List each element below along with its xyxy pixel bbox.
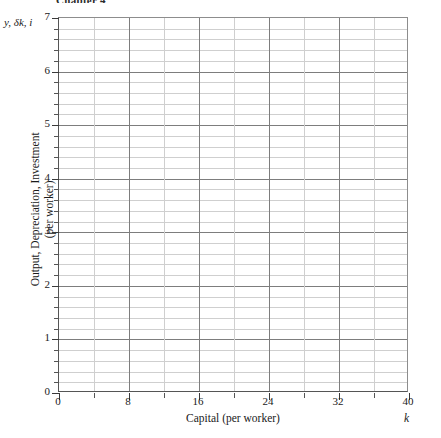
gridline-horizontal-major xyxy=(59,339,407,340)
y-axis-tick xyxy=(52,72,59,73)
x-axis-variable-symbol: k xyxy=(404,412,409,424)
gridline-horizontal-minor xyxy=(59,254,407,255)
y-tick-label-group: 01234567 xyxy=(30,17,50,392)
gridline-vertical-major xyxy=(269,18,270,391)
gridline-horizontal-major xyxy=(59,72,407,73)
gridline-horizontal-major xyxy=(59,232,407,233)
gridline-horizontal-minor xyxy=(59,329,407,330)
gridline-horizontal-minor xyxy=(59,211,407,212)
gridline-horizontal-minor xyxy=(59,29,407,30)
y-axis-tick xyxy=(54,211,59,212)
y-axis-tick xyxy=(52,232,59,233)
y-axis-tick xyxy=(54,82,59,83)
gridline-horizontal-minor xyxy=(59,93,407,94)
x-tick-label-group: 0816243240 xyxy=(58,396,408,412)
y-axis-tick xyxy=(54,189,59,190)
gridline-horizontal-minor xyxy=(59,39,407,40)
gridline-horizontal-minor xyxy=(59,189,407,190)
gridline-horizontal-minor xyxy=(59,157,407,158)
chart-page: Chapter 4 y, δk, i Output, Depreciation,… xyxy=(0,0,441,438)
gridline-horizontal-minor xyxy=(59,243,407,244)
plot-area xyxy=(58,17,408,392)
y-axis-tick xyxy=(52,339,59,340)
gridline-horizontal-minor xyxy=(59,222,407,223)
y-axis-tick xyxy=(52,179,59,180)
gridline-horizontal-minor xyxy=(59,318,407,319)
y-axis-tick xyxy=(52,18,59,19)
gridline-horizontal-major xyxy=(59,286,407,287)
y-axis-tick xyxy=(54,350,59,351)
y-axis-tick xyxy=(54,318,59,319)
y-tick-label: 5 xyxy=(45,118,51,129)
y-axis-tick xyxy=(52,125,59,126)
y-axis-tick xyxy=(54,114,59,115)
y-axis-tick xyxy=(54,50,59,51)
y-axis-tick xyxy=(54,372,59,373)
x-tick-label: 0 xyxy=(43,396,73,407)
y-axis-tick xyxy=(54,243,59,244)
y-axis-tick xyxy=(54,329,59,330)
y-axis-variable-symbol: y, δk, i xyxy=(4,16,32,28)
gridline-horizontal-minor xyxy=(59,147,407,148)
gridline-vertical-minor xyxy=(304,18,305,391)
gridline-horizontal-minor xyxy=(59,350,407,351)
gridline-horizontal-minor xyxy=(59,372,407,373)
gridline-vertical-minor xyxy=(94,18,95,391)
y-axis-tick xyxy=(52,393,59,394)
grid-layer xyxy=(59,18,407,391)
y-axis-tick xyxy=(54,275,59,276)
gridline-horizontal-minor xyxy=(59,50,407,51)
y-axis-tick xyxy=(54,168,59,169)
x-tick-label: 16 xyxy=(183,396,213,407)
gridline-horizontal-minor xyxy=(59,136,407,137)
x-tick-label: 24 xyxy=(253,396,283,407)
gridline-horizontal-minor xyxy=(59,264,407,265)
gridline-horizontal-minor xyxy=(59,61,407,62)
y-tick-label: 1 xyxy=(45,332,51,343)
gridline-horizontal-minor xyxy=(59,307,407,308)
y-axis-tick xyxy=(54,39,59,40)
y-tick-label: 3 xyxy=(45,225,51,236)
x-tick-label: 32 xyxy=(323,396,353,407)
x-tick-label: 8 xyxy=(113,396,143,407)
gridline-horizontal-minor xyxy=(59,168,407,169)
gridline-vertical-minor xyxy=(374,18,375,391)
x-axis-title: Capital (per worker) xyxy=(58,412,408,424)
y-tick-label: 7 xyxy=(45,11,51,22)
gridline-vertical-major xyxy=(339,18,340,391)
gridline-vertical-major xyxy=(199,18,200,391)
gridline-horizontal-major xyxy=(59,125,407,126)
gridline-vertical-major xyxy=(129,18,130,391)
y-axis-tick xyxy=(54,361,59,362)
y-axis-tick xyxy=(54,222,59,223)
y-axis-tick xyxy=(54,200,59,201)
y-axis-tick xyxy=(52,286,59,287)
y-axis-tick xyxy=(54,93,59,94)
gridline-horizontal-minor xyxy=(59,114,407,115)
gridline-horizontal-minor xyxy=(59,361,407,362)
gridline-vertical-minor xyxy=(164,18,165,391)
y-axis-tick xyxy=(54,104,59,105)
gridline-horizontal-minor xyxy=(59,297,407,298)
y-tick-label: 6 xyxy=(45,65,51,76)
x-tick-label: 40 xyxy=(393,396,423,407)
y-tick-label: 4 xyxy=(45,172,51,183)
gridline-horizontal-minor xyxy=(59,200,407,201)
y-axis-tick xyxy=(54,254,59,255)
y-axis-tick xyxy=(54,147,59,148)
gridline-horizontal-minor xyxy=(59,275,407,276)
y-axis-tick xyxy=(54,297,59,298)
y-axis-tick xyxy=(54,307,59,308)
y-axis-tick xyxy=(54,61,59,62)
gridline-horizontal-minor xyxy=(59,82,407,83)
chapter-header: Chapter 4 xyxy=(56,0,186,3)
y-axis-tick xyxy=(54,264,59,265)
y-axis-tick xyxy=(54,382,59,383)
gridline-horizontal-minor xyxy=(59,104,407,105)
y-axis-tick xyxy=(54,136,59,137)
gridline-horizontal-major xyxy=(59,179,407,180)
gridline-vertical-minor xyxy=(234,18,235,391)
y-tick-label: 2 xyxy=(45,279,51,290)
y-axis-tick xyxy=(54,157,59,158)
y-axis-tick xyxy=(54,29,59,30)
